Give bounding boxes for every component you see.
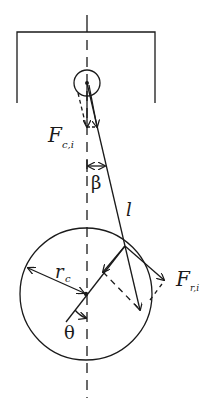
label-beta: β [91, 172, 101, 193]
crank-pin-force-vectors [103, 246, 164, 310]
svg-text:F: F [47, 123, 63, 147]
svg-text:c,i: c,i [62, 139, 74, 150]
piston-force-vectors [78, 85, 97, 127]
svg-text:c: c [65, 273, 71, 284]
label-piston-force: F c,i [47, 123, 74, 150]
svg-text:r,i: r,i [190, 283, 199, 293]
label-theta: θ [64, 322, 75, 343]
svg-text:r: r [55, 261, 65, 282]
label-crank-radius: r c [55, 261, 71, 284]
slider-crank-diagram: F c,i β l r c F r,i θ [0, 0, 205, 398]
label-rod-length: l [126, 199, 132, 220]
theta-arc [75, 310, 86, 318]
piston [17, 15, 155, 103]
svg-text:F: F [175, 267, 191, 291]
label-radial-force: F r,i [175, 267, 199, 293]
